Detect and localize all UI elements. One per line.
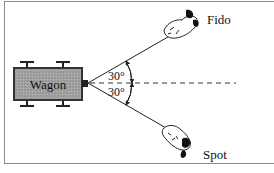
dog-spot-illustration: [162, 125, 190, 158]
angle-arc-upper-base: [126, 61, 132, 83]
dog-fido-illustration: [164, 10, 199, 38]
angle-label-lower: 30°: [108, 85, 125, 99]
wagon: Wagon: [14, 62, 88, 106]
diagram-canvas: Wagon 30° 30° Fido Spot: [0, 0, 274, 173]
dog-spot-label: Spot: [203, 147, 227, 162]
angle-label-upper: 30°: [108, 69, 125, 83]
wagon-label: Wagon: [30, 77, 67, 92]
rope-to-fido: [88, 30, 180, 83]
angle-arc-lower-base: [126, 83, 132, 105]
dog-fido-label: Fido: [207, 12, 231, 27]
wagon-hitch: [82, 80, 88, 87]
